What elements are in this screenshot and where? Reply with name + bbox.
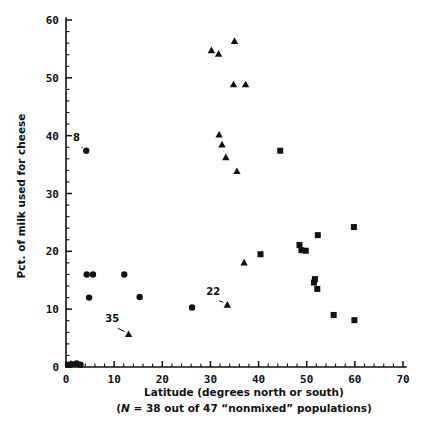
data-point-circle (86, 294, 92, 300)
data-point-triangle (242, 81, 249, 88)
y-tick-label: 0 (52, 361, 59, 374)
data-point-square (351, 224, 357, 230)
data-point-triangle (215, 50, 222, 57)
y-tick-label: 50 (46, 72, 59, 85)
data-point-square (311, 280, 317, 286)
y-tick-label: 40 (46, 130, 59, 143)
y-tick-label: 10 (46, 303, 59, 316)
data-point-square (315, 232, 321, 238)
data-point-square (257, 251, 263, 257)
x-tick-label: 0 (63, 373, 70, 386)
x-axis-title: Latitude (degrees north or south) (144, 386, 344, 398)
y-tick-label: 60 (46, 14, 59, 27)
x-axis-tick-labels: 010203040506070 (63, 373, 410, 386)
data-point-triangle (218, 141, 225, 148)
data-point-triangle (233, 167, 240, 174)
point-annotations: 82235 (73, 132, 223, 332)
data-point-circle (136, 294, 142, 300)
data-point-triangle (230, 81, 237, 88)
data-point-square (314, 286, 320, 292)
data-point-triangle (208, 47, 215, 54)
y-axis-ticks (66, 20, 72, 367)
annotation-label: 22 (206, 286, 220, 297)
annotation-label: 35 (105, 313, 119, 324)
x-tick-label: 10 (108, 373, 121, 386)
annotation-leader-line (219, 301, 223, 302)
data-point-square (351, 317, 357, 323)
x-tick-label: 20 (156, 373, 169, 386)
x-tick-label: 50 (300, 373, 313, 386)
x-axis-subtitle: (N = 38 out of 47 “nonmixed” populations… (116, 402, 371, 414)
data-point-triangle (215, 131, 222, 138)
data-point-square (277, 148, 283, 154)
data-point-square (331, 312, 337, 318)
annotation-leader-line (118, 328, 125, 331)
y-tick-label: 30 (46, 188, 59, 201)
data-point-triangle (231, 37, 238, 44)
data-point-square (296, 242, 302, 248)
data-point-triangle (240, 259, 247, 266)
chart-figure: 010203040506070 0102030405060 82235 Lati… (0, 0, 428, 427)
x-tick-label: 30 (204, 373, 217, 386)
data-point-triangle (125, 331, 132, 338)
data-point-circle (77, 361, 83, 367)
scatter-plot-canvas: 010203040506070 0102030405060 82235 Lati… (0, 0, 428, 427)
x-tick-label: 70 (396, 373, 409, 386)
annotation-leader-line (81, 147, 82, 148)
x-tick-label: 40 (252, 373, 265, 386)
data-point-square (303, 248, 309, 254)
data-point-triangle (224, 301, 231, 308)
data-point-circle (189, 304, 195, 310)
data-point-circle (121, 271, 127, 277)
y-axis-tick-labels: 0102030405060 (46, 14, 59, 374)
y-axis-title: Pct. of milk used for cheese (15, 114, 27, 279)
x-axis-ticks (66, 361, 403, 367)
data-point-circle (84, 271, 90, 277)
data-point-circle (90, 271, 96, 277)
annotation-label: 8 (73, 132, 80, 143)
data-point-triangle (222, 154, 229, 161)
y-tick-label: 20 (46, 245, 59, 258)
data-point-circle (83, 148, 89, 154)
x-tick-label: 60 (348, 373, 361, 386)
